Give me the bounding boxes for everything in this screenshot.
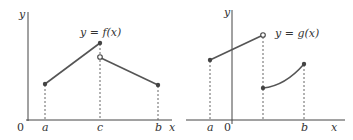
x-axis-label: x [169,121,176,134]
open-point-c [98,55,103,60]
tick-label-b: b [155,121,162,134]
tick-label-c: c [97,121,103,134]
figure: y 0 x a c b y = f(x) y 0 x a b y [0,0,353,140]
tick-label-a: a [42,121,49,134]
filled-point-a [208,58,212,62]
filled-point-c [98,41,102,45]
segment-right [101,58,158,85]
graph-f: y 0 x a c b y = f(x) [17,8,176,134]
origin-label: 0 [224,121,231,134]
function-label-f: y = f(x) [79,26,121,39]
filled-point-a [43,82,47,86]
origin-label: 0 [17,121,24,134]
open-point-jump [261,33,266,38]
y-axis-label: y [223,6,231,19]
y-axis-label: y [18,8,26,21]
curve-right [263,64,304,88]
segment-left [45,43,100,84]
tick-label-a: a [207,121,214,134]
filled-point-b [302,62,306,66]
filled-point-b [156,83,160,87]
tick-label-b: b [301,121,308,134]
graph-g: y 0 x a b y = g(x) [186,6,345,134]
x-axis-label: x [331,121,338,134]
function-label-g: y = g(x) [274,27,319,40]
segment-left [210,36,261,60]
filled-point-jump [261,86,265,90]
